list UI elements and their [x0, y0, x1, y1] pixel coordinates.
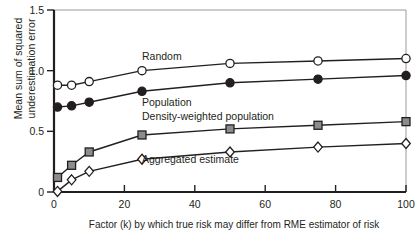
data-point-marker — [314, 75, 322, 83]
series-label: Population — [142, 96, 192, 108]
x-axis-tick-label: 100 — [397, 198, 415, 210]
data-point-marker — [402, 118, 410, 126]
x-axis-label: Factor (k) by which true risk may differ… — [54, 219, 414, 230]
data-point-marker — [138, 131, 146, 139]
x-axis-tick-label: 40 — [189, 198, 201, 210]
series-label: Density-weighted population — [142, 110, 274, 122]
data-point-marker — [67, 175, 76, 185]
series-aggregated-estimate: Aggregated estimate — [53, 138, 410, 196]
chart-plot-area: 00.51.01.5020406080100RandomPopulationDe… — [0, 0, 420, 215]
data-point-marker — [53, 103, 61, 111]
data-point-marker — [314, 57, 322, 65]
data-point-marker — [68, 161, 76, 169]
figure-container: Mean sum of squared underestimation erro… — [0, 0, 420, 231]
series-label: Random — [142, 50, 182, 62]
data-point-marker — [402, 54, 410, 62]
data-point-marker — [402, 138, 411, 148]
data-point-marker — [314, 121, 322, 129]
data-point-marker — [138, 87, 146, 95]
data-point-marker — [53, 81, 61, 89]
data-point-marker — [85, 98, 93, 106]
x-axis-tick-label: 0 — [51, 198, 57, 210]
data-point-marker — [226, 59, 234, 67]
y-axis-tick-label: 0 — [38, 186, 44, 198]
x-axis-tick-label: 20 — [119, 198, 131, 210]
data-point-marker — [226, 79, 234, 87]
data-point-marker — [314, 142, 323, 152]
data-point-marker — [68, 102, 76, 110]
data-point-marker — [85, 148, 93, 156]
x-axis-tick-label: 60 — [259, 198, 271, 210]
data-point-marker — [85, 77, 93, 85]
series-label: Aggregated estimate — [142, 153, 239, 165]
x-axis-tick-label: 80 — [330, 198, 342, 210]
data-point-marker — [402, 71, 410, 79]
y-axis-label: Mean sum of squared underestimation erro… — [12, 0, 37, 149]
data-point-marker — [138, 67, 146, 75]
data-point-marker — [226, 125, 234, 133]
data-point-marker — [54, 173, 62, 181]
data-point-marker — [68, 81, 76, 89]
data-point-marker — [85, 166, 94, 176]
